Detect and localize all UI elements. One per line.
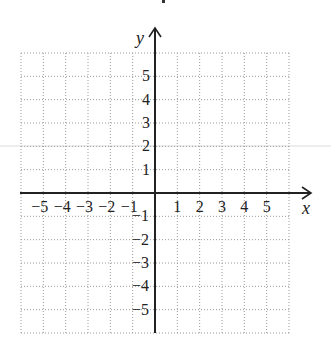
x-tick-label: 5 [263, 199, 271, 215]
cropped-glyph-fragment [162, 0, 165, 3]
y-tick-label: −4 [132, 278, 149, 294]
grid-svg [0, 0, 331, 353]
y-tick-label: −3 [132, 255, 149, 271]
x-tick-label: 1 [173, 199, 181, 215]
x-tick-label: −2 [98, 199, 115, 215]
y-tick-label: 3 [142, 115, 150, 131]
x-tick-label: −3 [76, 199, 93, 215]
y-tick-label: −5 [132, 302, 149, 318]
coordinate-plane: −5−4−3−2−11234554321−1−2−3−4−5 y x [0, 0, 331, 353]
y-tick-label: 2 [142, 138, 150, 154]
x-axis-label: x [302, 199, 310, 217]
x-tick-label: 4 [240, 199, 248, 215]
x-tick-label: 2 [196, 199, 204, 215]
axes [20, 28, 311, 333]
x-tick-label: 3 [218, 199, 226, 215]
x-tick-label: −5 [31, 199, 48, 215]
y-axis-label: y [136, 29, 144, 47]
x-tick-label: −4 [54, 199, 71, 215]
y-tick-label: 5 [142, 68, 150, 84]
y-tick-label: 1 [142, 162, 150, 178]
y-tick-label: −2 [132, 232, 149, 248]
y-tick-label: −1 [132, 208, 149, 224]
y-tick-label: 4 [142, 92, 150, 108]
